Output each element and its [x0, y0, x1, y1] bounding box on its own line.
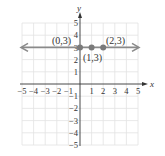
svg-text:−2: −2 — [52, 86, 61, 96]
svg-text:3: 3 — [113, 86, 117, 96]
svg-text:−4: −4 — [69, 128, 79, 138]
svg-text:5: 5 — [136, 86, 140, 96]
svg-text:−2: −2 — [69, 103, 78, 113]
svg-text:5: 5 — [74, 18, 78, 28]
svg-text:1: 1 — [74, 67, 78, 77]
svg-text:1: 1 — [89, 86, 93, 96]
svg-text:−1: −1 — [69, 91, 78, 101]
svg-text:2: 2 — [101, 86, 105, 96]
svg-text:−3: −3 — [41, 86, 50, 96]
point-label-2-3: (2,3) — [106, 35, 125, 47]
svg-text:−4: −4 — [29, 86, 39, 96]
point-1-3 — [89, 44, 95, 50]
svg-text:4: 4 — [124, 86, 129, 96]
svg-text:−5: −5 — [17, 86, 26, 96]
point-0-3 — [77, 44, 83, 50]
svg-text:−3: −3 — [69, 116, 78, 126]
x-axis-label: x — [149, 79, 154, 89]
svg-text:−5: −5 — [69, 140, 78, 150]
x-tick-labels: −5 −4 −3 −2 −1 1 2 3 4 5 — [17, 86, 140, 96]
axes — [20, 12, 148, 146]
plotted-points — [77, 44, 106, 50]
x-axis-arrow-icon — [142, 82, 148, 86]
svg-text:2: 2 — [74, 55, 78, 65]
point-label-1-3: (1,3) — [83, 52, 102, 64]
coordinate-plane: x y −5 −4 −3 −2 −1 1 2 3 4 5 5 4 3 2 1 −… — [0, 0, 165, 156]
y-axis-label: y — [76, 3, 81, 13]
point-label-0-3: (0,3) — [52, 35, 71, 47]
